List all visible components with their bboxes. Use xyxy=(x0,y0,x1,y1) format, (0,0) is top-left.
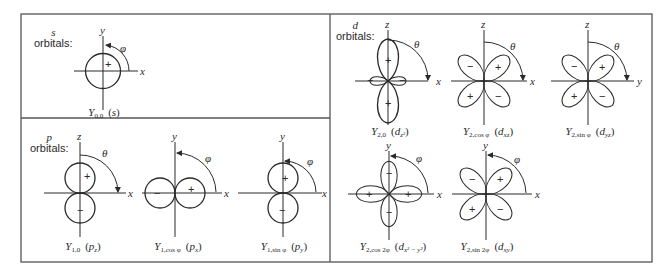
svg-text:θ: θ xyxy=(614,40,620,52)
frame xyxy=(21,14,652,262)
svg-text:−: − xyxy=(599,90,605,102)
svg-text:−: − xyxy=(495,90,501,102)
svg-text:x: x xyxy=(529,75,535,87)
svg-text:y: y xyxy=(99,24,105,36)
svg-text:x: x xyxy=(436,188,442,200)
svg-text:y: y xyxy=(171,130,177,142)
svg-text:θ: θ xyxy=(102,147,108,159)
p-heading-label: orbitals: xyxy=(30,142,69,154)
svg-text:−: − xyxy=(367,74,373,86)
svg-text:+: + xyxy=(385,97,391,109)
s-panel-heading: s orbitals: xyxy=(34,27,73,49)
svg-text:x: x xyxy=(223,187,229,199)
svg-text:−: − xyxy=(154,187,160,199)
svg-text:y: y xyxy=(385,139,391,151)
svg-text:−: − xyxy=(77,204,83,216)
svg-text:+: + xyxy=(571,90,577,102)
svg-text:θ: θ xyxy=(510,40,516,52)
svg-text:+: + xyxy=(497,173,503,185)
svg-text:z: z xyxy=(384,18,390,30)
svg-text:z: z xyxy=(584,18,590,30)
outer-border xyxy=(21,14,652,262)
svg-text:φ: φ xyxy=(416,152,422,164)
svg-text:+: + xyxy=(105,58,111,70)
d-heading-label: orbitals: xyxy=(336,30,375,42)
svg-text:x: x xyxy=(127,187,133,199)
svg-text:φ: φ xyxy=(514,153,520,165)
svg-text:+: + xyxy=(405,188,411,200)
caption-dx2y2: Y2,cos 2φ(dx² − y²) xyxy=(360,240,426,254)
svg-text:+: + xyxy=(366,188,372,200)
caption-py: Y1,sin φ(py) xyxy=(261,240,307,254)
orbital-dx2y2 xyxy=(348,151,434,240)
svg-text:−: − xyxy=(571,60,577,72)
svg-text:−: − xyxy=(497,203,503,215)
svg-text:φ: φ xyxy=(120,42,126,54)
orbital-dxz xyxy=(451,30,527,125)
caption-px: Y1,cos φ(px) xyxy=(154,240,201,254)
svg-text:−: − xyxy=(386,206,392,218)
svg-text:+: + xyxy=(495,61,501,73)
caption-dz2: Y2,0(dz²) xyxy=(371,125,409,139)
svg-text:+: + xyxy=(385,54,391,66)
caption-s: Y0,0(s) xyxy=(88,106,120,120)
svg-text:−: − xyxy=(279,204,285,216)
svg-text:θ: θ xyxy=(414,38,420,50)
caption-dyz: Y2,sin φ(dyz) xyxy=(565,125,614,139)
svg-text:x: x xyxy=(435,75,441,87)
svg-text:φ: φ xyxy=(307,155,313,167)
svg-text:x: x xyxy=(321,187,327,199)
caption-pz: Y1,0(pz) xyxy=(65,240,100,254)
svg-text:y: y xyxy=(482,139,488,151)
svg-text:−: − xyxy=(467,60,473,72)
orbital-s xyxy=(74,36,138,110)
s-heading-label: orbitals: xyxy=(34,37,73,49)
svg-text:+: + xyxy=(469,203,475,215)
svg-text:x: x xyxy=(139,65,145,77)
d-panel-heading: d orbitals: xyxy=(336,20,375,42)
svg-text:−: − xyxy=(469,173,475,185)
svg-text:z: z xyxy=(76,130,82,142)
svg-text:φ: φ xyxy=(205,152,211,164)
orbital-dyz xyxy=(551,30,634,125)
p-panel-heading: p orbitals: xyxy=(30,132,69,154)
svg-text:+: + xyxy=(467,90,473,102)
svg-text:+: + xyxy=(188,183,194,195)
orbital-pz xyxy=(44,142,126,237)
svg-text:+: + xyxy=(282,172,288,184)
caption-dxz: Y2,cos φ(dxz) xyxy=(463,125,513,139)
caption-dxy: Y2,sin 2φ(dxy) xyxy=(461,240,514,254)
svg-text:+: + xyxy=(84,170,90,182)
svg-text:x: x xyxy=(534,188,540,200)
svg-text:z: z xyxy=(480,18,486,30)
svg-text:y: y xyxy=(279,130,285,142)
svg-text:−: − xyxy=(399,74,405,86)
svg-text:−: − xyxy=(386,167,392,179)
svg-text:y: y xyxy=(636,75,642,87)
svg-text:+: + xyxy=(599,61,605,73)
